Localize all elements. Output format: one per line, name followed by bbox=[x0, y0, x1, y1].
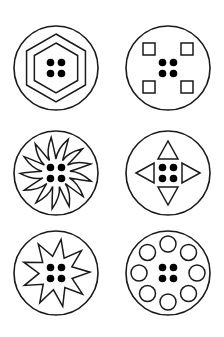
button-hole-dot bbox=[159, 264, 167, 272]
button-swirl-star bbox=[14, 131, 98, 215]
button-hole-dot bbox=[58, 275, 66, 283]
button-hole-dot bbox=[47, 59, 55, 67]
button-hexagon bbox=[14, 26, 98, 110]
inner-hexagon bbox=[34, 43, 77, 93]
button-starburst bbox=[14, 231, 98, 315]
button-hole-dot bbox=[170, 264, 178, 272]
button-illustrations bbox=[0, 0, 224, 337]
button-hole-dot bbox=[170, 59, 178, 67]
button-hole-dot bbox=[47, 275, 55, 283]
button-hole-dot bbox=[58, 59, 66, 67]
button-outline-circle bbox=[126, 231, 210, 315]
button-hole-dot bbox=[159, 275, 167, 283]
button-pattern-sheet bbox=[0, 0, 224, 337]
button-hole-dot bbox=[170, 275, 178, 283]
arrow-up-triangle bbox=[158, 141, 178, 159]
button-hole-dot bbox=[159, 175, 167, 183]
button-hole-dot bbox=[58, 70, 66, 78]
button-hole-dot bbox=[58, 164, 66, 172]
button-hole-dot bbox=[47, 70, 55, 78]
button-hole-dot bbox=[170, 175, 178, 183]
ring-circle bbox=[189, 265, 205, 281]
button-corner-squares bbox=[126, 26, 210, 110]
starburst-shape bbox=[24, 239, 90, 306]
button-arrow-triangles bbox=[126, 131, 210, 215]
corner-square bbox=[143, 81, 155, 93]
button-outline-circle bbox=[126, 26, 210, 110]
arrow-right-triangle bbox=[182, 163, 200, 183]
swirl-star-shape bbox=[20, 137, 91, 208]
button-hole-dot bbox=[47, 264, 55, 272]
button-hole-dot bbox=[58, 264, 66, 272]
button-hole-dot bbox=[159, 59, 167, 67]
button-hole-dot bbox=[170, 164, 178, 172]
ring-circle bbox=[181, 286, 197, 302]
arrow-left-triangle bbox=[136, 163, 154, 183]
outer-hexagon bbox=[27, 34, 86, 102]
corner-square bbox=[181, 43, 193, 55]
button-hole-dot bbox=[47, 164, 55, 172]
button-hole-dot bbox=[47, 175, 55, 183]
ring-circle bbox=[160, 294, 176, 310]
button-ring-circles bbox=[126, 231, 210, 315]
ring-circle bbox=[131, 265, 147, 281]
button-hole-dot bbox=[159, 70, 167, 78]
ring-circle bbox=[139, 244, 155, 260]
ring-circle bbox=[181, 244, 197, 260]
button-hole-dot bbox=[170, 70, 178, 78]
ring-circle bbox=[160, 236, 176, 252]
button-hole-dot bbox=[58, 175, 66, 183]
corner-square bbox=[181, 81, 193, 93]
arrow-down-triangle bbox=[158, 187, 178, 205]
button-outline-circle bbox=[126, 131, 210, 215]
ring-circle bbox=[139, 286, 155, 302]
button-hole-dot bbox=[159, 164, 167, 172]
corner-square bbox=[143, 43, 155, 55]
